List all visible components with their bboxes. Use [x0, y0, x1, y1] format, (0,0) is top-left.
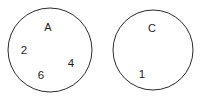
set-label-c: C — [148, 22, 156, 34]
set-a-member-0: 2 — [21, 44, 27, 56]
set-c-member-0: 1 — [139, 68, 145, 80]
venn-diagram-canvas: A 2 4 6 C 1 — [0, 0, 203, 98]
venn-diagram-svg: A 2 4 6 C 1 — [0, 0, 203, 98]
set-a-member-2: 6 — [38, 69, 44, 81]
set-label-a: A — [44, 21, 52, 33]
set-a-member-1: 4 — [68, 57, 75, 69]
